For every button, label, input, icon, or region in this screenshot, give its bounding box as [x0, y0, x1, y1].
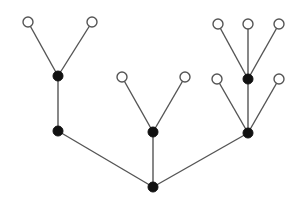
- tree-edge: [122, 77, 153, 132]
- leaf-node: [274, 19, 284, 29]
- internal-node: [53, 126, 63, 136]
- internal-node: [243, 128, 253, 138]
- tree-edge: [58, 131, 153, 187]
- tree-edge: [153, 133, 248, 187]
- leaf-node: [117, 72, 127, 82]
- tree-edge: [217, 79, 248, 133]
- internal-node: [148, 127, 158, 137]
- tree-edges: [28, 22, 279, 187]
- root-node: [148, 182, 158, 192]
- internal-node: [53, 71, 63, 81]
- tree-edge: [218, 24, 248, 79]
- leaf-node: [213, 19, 223, 29]
- leaf-node: [180, 72, 190, 82]
- internal-node: [243, 74, 253, 84]
- tree-edge: [58, 22, 92, 76]
- tree-edge: [153, 77, 185, 132]
- tree-diagram: [0, 0, 303, 202]
- tree-edge: [28, 22, 58, 76]
- leaf-node: [23, 17, 33, 27]
- leaf-node: [87, 17, 97, 27]
- leaf-node: [243, 19, 253, 29]
- leaf-node: [274, 74, 284, 84]
- tree-edge: [248, 79, 279, 133]
- tree-edge: [248, 24, 279, 79]
- leaf-node: [212, 74, 222, 84]
